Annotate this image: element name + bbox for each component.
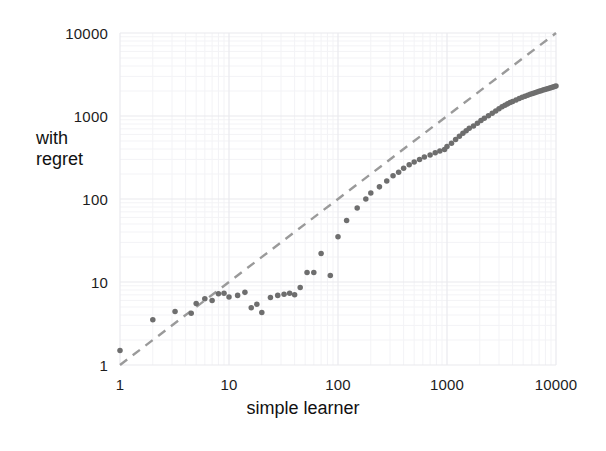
data-point [311, 270, 317, 276]
y-tick-label: 100 [0, 191, 108, 208]
data-point [248, 305, 254, 311]
data-point [117, 348, 123, 354]
data-point [449, 140, 455, 146]
plot-canvas [0, 0, 606, 451]
data-point [344, 218, 350, 224]
data-point [202, 296, 208, 302]
data-point [354, 205, 360, 211]
data-point [363, 196, 369, 202]
data-point [188, 311, 194, 317]
data-point [384, 178, 390, 184]
x-tick-label: 10 [220, 376, 237, 393]
y-tick-label: 10000 [0, 25, 108, 42]
y-axis-title: with regret [36, 128, 83, 170]
data-point [390, 173, 396, 179]
x-tick-label: 10000 [535, 376, 578, 393]
data-point [318, 251, 324, 257]
data-point [259, 310, 265, 316]
data-point [254, 301, 260, 307]
data-point [297, 285, 303, 291]
data-point [437, 148, 443, 154]
x-tick-label: 100 [325, 376, 351, 393]
data-point [281, 292, 287, 298]
data-point [422, 154, 428, 160]
x-tick-label: 1 [116, 376, 125, 393]
data-point [406, 162, 412, 168]
data-point [150, 317, 156, 323]
data-point [172, 309, 178, 315]
data-point [221, 291, 227, 297]
data-point [287, 291, 293, 297]
data-point [411, 159, 417, 165]
scatter-chart: with regret simple learner 1101001000100… [0, 0, 606, 451]
y-tick-label: 1000 [0, 108, 108, 125]
data-point [209, 298, 215, 304]
y-tick-label: 10 [0, 274, 108, 291]
data-point [396, 169, 402, 175]
data-point [328, 273, 334, 279]
x-axis-title: simple learner [0, 398, 606, 419]
data-point [444, 144, 450, 150]
data-point [242, 290, 248, 296]
data-point [368, 190, 374, 196]
x-tick-label: 1000 [430, 376, 464, 393]
data-point [235, 293, 241, 299]
data-point [268, 295, 274, 301]
data-point [401, 165, 407, 171]
data-point [226, 294, 232, 300]
data-point [304, 270, 310, 276]
data-point [377, 184, 383, 190]
data-point [553, 83, 559, 89]
data-point [216, 291, 222, 297]
data-point [335, 234, 341, 240]
data-point [275, 293, 281, 299]
data-point [417, 157, 423, 163]
y-tick-label: 1 [0, 357, 108, 374]
data-point [427, 152, 433, 158]
data-point [292, 292, 298, 298]
data-point [193, 301, 199, 307]
